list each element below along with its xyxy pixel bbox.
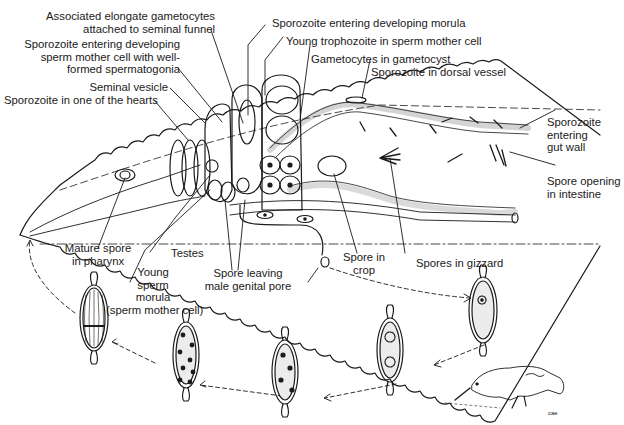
spore-stage-3 bbox=[272, 327, 298, 417]
label-sporozoite-sperm-mother-cell: Sporozoite entering developing sperm mot… bbox=[10, 38, 180, 76]
label-spore-opening-intestine: Spore opening in intestine bbox=[547, 175, 621, 200]
bird-illustration bbox=[445, 366, 564, 408]
label-spore-leaving-genital-pore: Spore leaving male genital pore bbox=[198, 267, 298, 292]
artist-signature: cae bbox=[548, 410, 558, 417]
label-young-sperm-morula: Young sperm morula (sperm mother cell) bbox=[106, 266, 200, 316]
label-spores-in-gizzard: Spores in gizzard bbox=[416, 257, 503, 270]
label-seminal-vesicle: Seminal vesicle bbox=[60, 81, 168, 94]
label-associated-gametocytes: Associated elongate gametocytes attached… bbox=[40, 10, 215, 35]
label-sporozoite-heart: Sporozoite in one of the hearts bbox=[4, 94, 154, 107]
label-mature-spore-pharynx: Mature spore in pharynx bbox=[58, 242, 138, 267]
label-sporozoite-gut-wall: Sporozoite entering gut wall bbox=[547, 116, 601, 154]
body-spores bbox=[115, 97, 506, 181]
spore-stage-2 bbox=[377, 305, 403, 395]
spore-stage-4 bbox=[173, 309, 199, 401]
label-sporozoite-dorsal-vessel: Sporozoite in dorsal vessel bbox=[371, 66, 506, 79]
label-spore-in-crop: Spore in crop bbox=[342, 251, 386, 276]
spore-stage-5 bbox=[80, 272, 108, 364]
label-testes: Testes bbox=[171, 247, 204, 260]
label-sporozoite-morula: Sporozoite entering developing morula bbox=[272, 17, 465, 30]
spore-stage-1 bbox=[469, 265, 497, 356]
label-gametocytes-gametocyst: Gametocytes in gametocyst bbox=[311, 53, 450, 66]
label-young-trophozoite: Young trophozoite in sperm mother cell bbox=[286, 35, 482, 48]
hearts-and-vesicles bbox=[170, 75, 329, 267]
